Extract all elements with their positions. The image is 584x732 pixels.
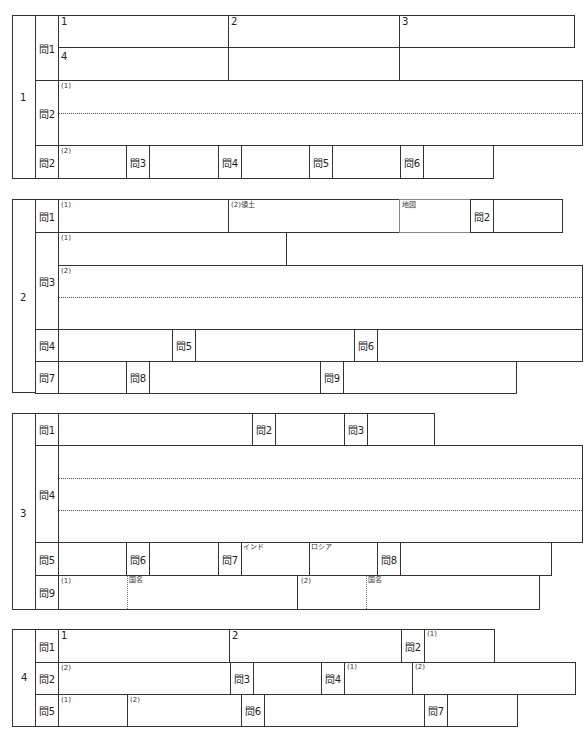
answer-cell-3-9-2[interactable] (297, 575, 540, 610)
question-label: 問3 (344, 413, 368, 446)
dotted-divider (127, 576, 128, 609)
answer-cell-4-4-2[interactable] (412, 662, 576, 695)
section-number: 4 (21, 673, 27, 683)
answer-cell-4-3[interactable] (253, 662, 322, 695)
answer-cell-3-1[interactable] (58, 413, 253, 446)
cell-label: 2 (232, 631, 238, 641)
cell-label: (2) (61, 268, 71, 275)
dotted-guide-line (59, 478, 582, 479)
answer-cell-1-1-3[interactable] (399, 15, 575, 48)
answer-cell-4-5-2[interactable] (127, 694, 242, 727)
question-label: 問6 (241, 694, 265, 727)
answer-cell-3-6[interactable] (149, 542, 219, 576)
question-label: 問6 (400, 145, 424, 179)
cell-label: 4 (61, 52, 67, 62)
question-label: 問4 (218, 145, 242, 179)
answer-cell-4-2-2[interactable] (58, 662, 231, 695)
cell-label: ロシア (311, 544, 332, 551)
cell-label: (1) (61, 578, 71, 585)
cell-label: 3 (402, 17, 408, 27)
dotted-guide-line (59, 510, 582, 511)
question-label: 問1 (35, 413, 59, 446)
cell-label: 国名 (129, 577, 143, 584)
answer-cell-3-5[interactable] (58, 542, 127, 576)
answer-cell-4-7[interactable] (447, 694, 518, 727)
question-label: 問8 (126, 361, 150, 394)
question-label: 問7 (218, 542, 242, 576)
answer-cell-2-1-1[interactable] (58, 199, 229, 233)
dotted-guide-line (59, 113, 582, 114)
question-label: 問9 (320, 361, 344, 394)
question-label: 問5 (35, 542, 59, 576)
cell-label: (2) (61, 665, 71, 672)
question-label: 問6 (126, 542, 150, 576)
answer-cell-2-8[interactable] (149, 361, 321, 394)
question-label: 問5 (309, 145, 333, 179)
section-number: 1 (20, 93, 26, 103)
question-label: 問9 (35, 575, 59, 610)
cell-label: 地図 (402, 202, 416, 209)
answer-cell-3-9-1[interactable] (58, 575, 298, 610)
question-label: 問2 (35, 145, 59, 179)
cell-label: (2) (61, 148, 71, 155)
question-label: 問4 (321, 662, 345, 695)
answer-cell-2-7[interactable] (58, 361, 127, 394)
question-label: 問2 (470, 199, 494, 233)
dotted-divider (366, 576, 367, 609)
cell-label: (1) (427, 631, 437, 638)
answer-cell-1-3[interactable] (149, 145, 219, 179)
question-label: 問5 (35, 694, 59, 727)
answer-cell-3-8[interactable] (400, 542, 552, 576)
answer-cell-1-1-2[interactable] (228, 15, 400, 48)
answer-cell-1-1-4[interactable] (58, 47, 229, 81)
answer-cell-1-1-1[interactable] (58, 15, 229, 48)
cell-label: (2)領土 (231, 202, 255, 209)
cell-label: (1) (61, 697, 71, 704)
cell-label: (1) (347, 664, 357, 671)
cell-label: 1 (61, 631, 67, 641)
cell-label: (2) (415, 664, 425, 671)
answer-cell-2-6[interactable] (377, 329, 583, 362)
cell-label: インド (243, 544, 264, 551)
answer-cell-2-3-1[interactable] (58, 232, 287, 266)
question-label: 問1 (35, 199, 59, 233)
question-label: 問3 (35, 232, 59, 330)
question-label: 問1 (35, 629, 59, 663)
question-label: 問6 (354, 329, 378, 362)
question-label: 問7 (35, 361, 59, 394)
cell-label: (1) (61, 202, 71, 209)
answer-cell-1-4[interactable] (241, 145, 310, 179)
cell-label: 国名 (368, 577, 382, 584)
question-label: 問8 (377, 542, 401, 576)
cell-label: (2) (301, 578, 311, 585)
cell-label: (2) (130, 697, 140, 704)
answer-cell-2-9[interactable] (343, 361, 517, 394)
answer-cell-1-1-5[interactable] (228, 47, 400, 81)
question-label: 問7 (424, 694, 448, 727)
dotted-guide-line (59, 297, 582, 298)
cell-label: 1 (61, 17, 67, 27)
answer-cell-1-5[interactable] (332, 145, 401, 179)
answer-cell-2-2[interactable] (493, 199, 563, 233)
answer-cell-3-3[interactable] (367, 413, 435, 446)
cell-label: (1) (61, 235, 71, 242)
question-label: 問2 (252, 413, 276, 446)
question-label: 問5 (172, 329, 196, 362)
question-label: 問2 (35, 80, 59, 146)
question-label: 問4 (35, 329, 59, 362)
answer-cell-2-4[interactable] (58, 329, 173, 362)
answer-cell-2-5[interactable] (195, 329, 355, 362)
answer-cell-4-1-1[interactable] (58, 629, 230, 663)
section-number: 3 (20, 509, 26, 519)
question-label: 問3 (230, 662, 254, 695)
answer-cell-3-4[interactable] (58, 445, 583, 543)
answer-cell-1-6[interactable] (423, 145, 494, 179)
answer-cell-4-1-2[interactable] (229, 629, 402, 663)
question-label: 問2 (35, 662, 59, 695)
answer-cell-4-6[interactable] (264, 694, 425, 727)
question-label: 問3 (126, 145, 150, 179)
question-label: 問1 (35, 15, 59, 81)
question-label: 問2 (401, 629, 425, 663)
section-number: 2 (20, 293, 26, 303)
answer-cell-3-2[interactable] (275, 413, 345, 446)
